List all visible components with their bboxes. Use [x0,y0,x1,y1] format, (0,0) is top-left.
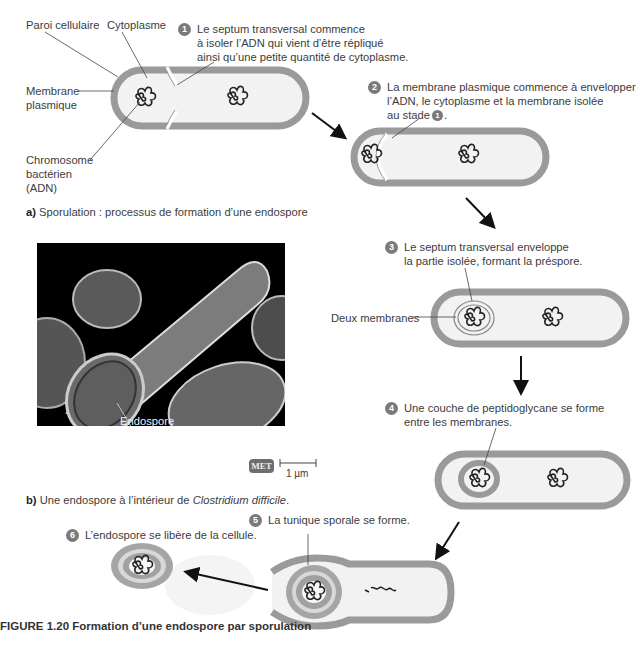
label-chromosome-2: bactérien [26,167,72,181]
step-6: 6L’endospore se libère de la cellule. [66,528,257,542]
scale-bar [280,459,316,467]
step-number-badge: 6 [66,529,79,542]
caption-part-a: a) Sporulation : processus de formation … [26,205,308,219]
free-endospore [111,543,173,589]
label-chromosome-1: Chromosome [26,153,93,167]
step-number-badge: 2 [368,81,381,94]
label-two-membranes: Deux membranes [331,311,419,325]
step-number-badge: 1 [178,23,191,36]
caption-part-b: b) Une endospore à l’intérieur de Clostr… [26,493,289,507]
cell-step-5 [165,534,451,626]
step-1: 1Le septum transversal commence à isoler… [178,22,408,64]
step-2: 2La membrane plasmique commence à envelo… [368,80,636,122]
label-cytoplasm: Cytoplasme [107,18,166,32]
step-number-badge: 3 [385,241,398,254]
endospore-label: Endospore [120,414,174,428]
step-5: 5La tunique sporale se forme. [249,513,410,527]
arrow-step-1-to-2 [312,113,344,137]
cell-step-3 [412,268,626,344]
met-badge: MET [249,459,274,473]
tem-micrograph [37,243,285,426]
cell-step-2 [354,118,546,183]
cell-step-1 [114,67,306,129]
label-plasma-membrane-1: Membrane [26,84,79,98]
step-number-badge: 5 [249,514,262,527]
label-plasma-membrane-2: plasmique [26,98,77,112]
arrow-step-2-to-3 [466,198,493,226]
cell-step-4 [438,428,627,506]
step-3: 3Le septum transversal enveloppe la part… [385,240,582,268]
step-number-badge: 4 [385,402,398,415]
label-chromosome-3: (ADN) [26,181,57,195]
scale-label: 1 µm [286,467,308,481]
step-4: 4Une couche de peptidoglycane se forme e… [385,401,604,429]
label-cell-wall: Paroi cellulaire [26,18,99,32]
figure-caption: FIGURE 1.20 Formation d’une endospore pa… [0,620,311,632]
step-ref-badge: 1 [432,110,443,121]
arrow-step-4-to-5 [437,522,459,557]
